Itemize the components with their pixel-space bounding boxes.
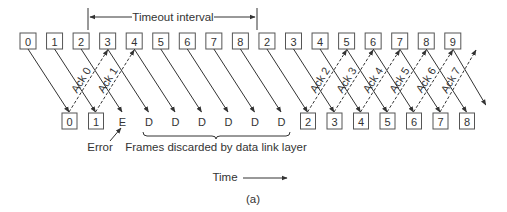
- frame-number: 2: [78, 36, 84, 48]
- frame-label: 4: [358, 116, 364, 128]
- frame-transmission-arrow: [214, 49, 255, 112]
- frame-transmission-arrow: [267, 49, 308, 112]
- discarded-frame: D: [251, 116, 259, 128]
- frame-number: 6: [370, 36, 376, 48]
- frame-label: 2: [305, 116, 311, 128]
- ack-label: Ack 4: [360, 65, 385, 95]
- ack-label: Ack 6: [413, 65, 438, 95]
- received-frame: 0: [62, 113, 77, 129]
- frame-number: 2: [264, 36, 270, 48]
- ack-label: Ack 5: [387, 65, 412, 95]
- frame-label: D: [198, 116, 206, 128]
- sent-frames-row: 01234567823456789: [20, 33, 461, 49]
- received-frame: 3: [327, 113, 342, 129]
- error-pointer-arrow: [110, 128, 121, 141]
- frame-transmission-arrow: [134, 49, 175, 112]
- sent-frame: 8: [418, 33, 434, 49]
- frame-label: D: [251, 116, 259, 128]
- sent-frame: 9: [445, 33, 461, 49]
- frame-number: 5: [158, 36, 164, 48]
- frame-number: 3: [105, 36, 111, 48]
- time-label: Time: [212, 171, 237, 183]
- ack-label: Ack 0: [69, 65, 94, 95]
- frame-label: 5: [384, 116, 390, 128]
- error-frame: E: [119, 116, 126, 128]
- frame-number: 8: [423, 36, 429, 48]
- frame-label: D: [172, 116, 180, 128]
- sent-frame: 5: [339, 33, 355, 49]
- error-label: Error: [87, 141, 113, 153]
- received-frames-row: 01EDDDDDD2345678: [62, 113, 475, 129]
- sent-frame: 8: [232, 33, 248, 49]
- timeout-label: Timeout interval: [132, 11, 213, 23]
- ack-label: Ack 2: [307, 65, 332, 95]
- frame-number: 7: [397, 36, 403, 48]
- sent-frame: 4: [312, 33, 328, 49]
- frame-label: 6: [411, 116, 417, 128]
- received-frame: 8: [460, 113, 475, 129]
- frame-number: 1: [51, 36, 57, 48]
- frame-label: 1: [93, 116, 99, 128]
- sent-frame: 3: [286, 33, 302, 49]
- sent-frame: 3: [100, 33, 116, 49]
- frame-label: 0: [66, 116, 72, 128]
- sent-frame: 7: [392, 33, 408, 49]
- error-annotation: Error: [87, 128, 121, 153]
- frame-label: E: [119, 116, 126, 128]
- discarded-frame: D: [198, 116, 206, 128]
- frame-label: D: [278, 116, 286, 128]
- frame-number: 0: [25, 36, 31, 48]
- received-frame: 6: [407, 113, 422, 129]
- sent-frame: 6: [365, 33, 381, 49]
- frame-number: 7: [211, 36, 217, 48]
- frame-label: D: [145, 116, 153, 128]
- figure-caption: (a): [246, 193, 260, 205]
- frame-number: 8: [237, 36, 243, 48]
- sent-frame: 0: [20, 33, 36, 49]
- frame-number: 5: [344, 36, 350, 48]
- frame-number: 3: [290, 36, 296, 48]
- sent-frame: 4: [126, 33, 142, 49]
- received-frame: 1: [89, 113, 104, 129]
- frame-number: 4: [317, 36, 323, 48]
- received-frame: 2: [301, 113, 316, 129]
- time-axis: Time: [212, 171, 287, 183]
- sent-frame: 7: [206, 33, 222, 49]
- discarded-frame: D: [172, 116, 180, 128]
- ack-arrows: Ack 0Ack 1Ack 2Ack 3Ack 4Ack 5Ack 6Ack 7: [69, 50, 476, 112]
- brace-shape: [143, 132, 290, 139]
- discarded-label: Frames discarded by data link layer: [125, 141, 307, 153]
- frame-label: 3: [331, 116, 337, 128]
- discarded-frame: D: [278, 116, 286, 128]
- received-frame: 7: [433, 113, 448, 129]
- frame-number: 9: [450, 36, 456, 48]
- sent-frame: 5: [153, 33, 169, 49]
- go-back-n-diagram: Timeout interval 01234567823456789 Ack 0…: [0, 0, 507, 212]
- frame-transmission-arrow: [28, 49, 69, 112]
- frame-number: 4: [131, 36, 137, 48]
- received-frame: 5: [380, 113, 395, 129]
- frame-number: 6: [184, 36, 190, 48]
- sent-frame: 6: [179, 33, 195, 49]
- sent-frame: 1: [47, 33, 63, 49]
- received-frame: 4: [354, 113, 369, 129]
- frame-label: 8: [464, 116, 470, 128]
- frame-label: 7: [437, 116, 443, 128]
- frame-transmission-arrow: [161, 49, 202, 112]
- sent-frame: 2: [259, 33, 275, 49]
- frame-transmission-arrow: [240, 49, 281, 112]
- ack-label: Ack 3: [334, 65, 359, 95]
- frame-label: D: [225, 116, 233, 128]
- frame-transmission-arrow: [187, 49, 228, 112]
- sent-frame: 2: [73, 33, 89, 49]
- discard-brace: Frames discarded by data link layer: [125, 132, 307, 153]
- discarded-frame: D: [225, 116, 233, 128]
- timeout-interval: Timeout interval: [88, 8, 257, 30]
- ack-label: Ack 1: [95, 65, 120, 95]
- discarded-frame: D: [145, 116, 153, 128]
